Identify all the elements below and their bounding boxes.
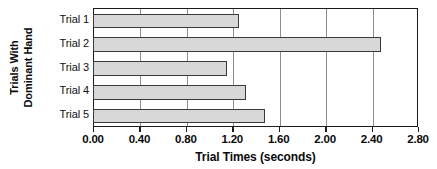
x-axis-tick <box>325 127 326 132</box>
bar <box>93 85 246 100</box>
x-axis-tick <box>279 127 280 132</box>
bars-layer <box>94 9 417 126</box>
x-axis-tick-label: 2.40 <box>361 133 383 145</box>
y-axis-tick-label: Trial 4 <box>60 84 89 96</box>
x-axis-tick <box>186 127 187 132</box>
bar <box>93 14 239 29</box>
x-axis-ticks <box>93 127 418 132</box>
x-axis-tick-label: 1.60 <box>268 133 290 145</box>
x-axis-tick-label: 2.00 <box>314 133 336 145</box>
y-axis-tick-label: Trial 5 <box>60 108 89 120</box>
y-axis-tick-label: Trial 1 <box>60 13 89 25</box>
y-axis-tick-labels: Trial 1Trial 2Trial 3Trial 4Trial 5 <box>44 8 93 127</box>
bar <box>93 61 227 76</box>
x-axis-tick <box>418 127 419 132</box>
x-axis-tick <box>232 127 233 132</box>
y-axis-title: Trials With Dominant Hand <box>0 0 44 135</box>
y-axis-tick-label: Trial 3 <box>60 61 89 73</box>
x-axis-tick-labels: 0.000.400.801.201.602.002.402.80 <box>0 133 437 149</box>
bar-chart: Trials With Dominant Hand Trial 1Trial 2… <box>0 0 437 169</box>
x-axis-tick <box>139 127 140 132</box>
bar <box>93 37 381 52</box>
y-axis-tick-label: Trial 2 <box>60 37 89 49</box>
x-axis-tick-label: 2.80 <box>407 133 429 145</box>
x-axis-tick-label: 1.20 <box>221 133 243 145</box>
x-axis-tick-label: 0.80 <box>175 133 197 145</box>
x-axis-tick <box>93 127 94 132</box>
plot-area <box>93 8 418 127</box>
x-axis-tick <box>372 127 373 132</box>
x-axis-title: Trial Times (seconds) <box>93 150 418 164</box>
x-axis-tick-label: 0.00 <box>82 133 104 145</box>
bar <box>93 109 265 124</box>
x-axis-tick-label: 0.40 <box>129 133 151 145</box>
y-axis-title-line-2: Dominant Hand <box>22 28 36 108</box>
y-axis-title-line-1: Trials With <box>9 28 23 108</box>
